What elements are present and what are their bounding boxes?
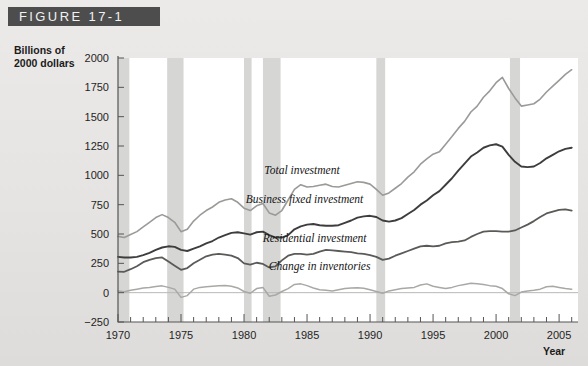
y-tick-label: −250 [84,316,109,328]
y-tick-label: 750 [91,199,109,211]
chart-plot-area: 200017501500125010007505002500−250 19701… [0,0,588,366]
series-annotation: Residential investment [262,232,368,244]
y-tick-label: 500 [91,228,109,240]
x-tick-label: 1970 [106,329,130,341]
x-tick-label: 1995 [421,329,445,341]
y-tick-label: 1250 [85,140,109,152]
series-annotation: Total investment [264,164,340,176]
x-tick-label: 1975 [169,329,193,341]
x-tick-label: 2005 [547,329,571,341]
y-tick-label: 250 [91,257,109,269]
recession-band [263,58,281,322]
x-tick-label: 1980 [232,329,256,341]
x-tick-label: 1985 [295,329,319,341]
y-tick-label: 0 [103,287,109,299]
series-annotation: Business fixed investment [246,193,364,206]
recession-band [118,58,129,322]
series-annotation: Change in inventories [269,260,371,273]
y-tick-label: 1750 [85,81,109,93]
y-tick-label: 1000 [85,169,109,181]
y-tick-labels-group: 200017501500125010007505002500−250 [84,52,109,328]
x-tick-label: 2000 [484,329,508,341]
chart-svg: 200017501500125010007505002500−250 19701… [0,0,588,366]
recession-band [167,58,183,322]
y-tick-label: 2000 [85,52,109,64]
figure-container: FIGURE 17-1 Billions of 2000 dollars Yea… [0,0,588,366]
x-tick-label: 1990 [358,329,382,341]
y-tick-label: 1500 [85,111,109,123]
plot-background [118,58,578,322]
x-tick-labels-group: 19701975198019851990199520002005 [106,329,572,341]
recession-band [244,58,252,322]
